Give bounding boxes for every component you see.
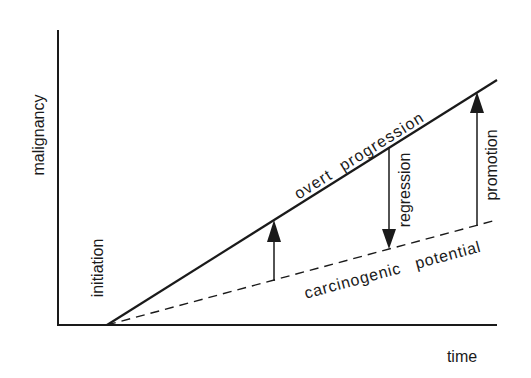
regression-arrow xyxy=(382,147,396,249)
y-axis-label: malignancy xyxy=(30,95,47,176)
carcinogenic-potential-line xyxy=(107,221,493,325)
promotion-label: promotion xyxy=(483,129,500,200)
arrowhead-down-icon xyxy=(382,229,396,249)
regression-label: regression xyxy=(396,153,413,228)
promotion-arrow xyxy=(470,92,484,226)
carcinogenic-potential-label: carcinogenic potential xyxy=(302,238,483,302)
x-axis-label: time xyxy=(447,348,477,365)
initiation-label: initiation xyxy=(89,239,106,298)
rise-arrow xyxy=(267,220,281,281)
diagram-canvas: malignancy time initiation overt progres… xyxy=(0,0,531,378)
overt-progression-line xyxy=(107,80,497,325)
